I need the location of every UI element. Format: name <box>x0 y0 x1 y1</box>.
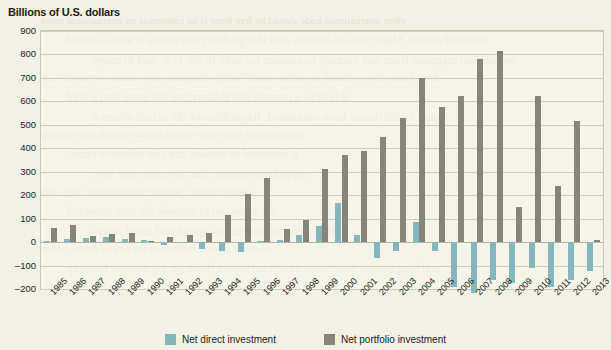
y-tick-600: 600 <box>2 95 36 106</box>
bar-portfolio-1991 <box>167 237 173 242</box>
bar-portfolio-2003 <box>400 118 406 242</box>
bar-portfolio-1989 <box>129 233 135 242</box>
bar-portfolio-2012 <box>574 121 580 242</box>
y-tick--100: –100 <box>2 259 36 270</box>
bar-portfolio-1990 <box>148 241 154 242</box>
y-axis-labels: 9008007006005004003002001000–100–200 <box>0 30 36 288</box>
bar-direct-2000 <box>335 203 341 242</box>
bar-direct-1991 <box>161 242 167 245</box>
bar-portfolio-1987 <box>90 236 96 243</box>
bar-portfolio-1999 <box>322 169 328 242</box>
bar-portfolio-2004 <box>419 78 425 242</box>
bar-direct-1989 <box>122 239 128 243</box>
bar-portfolio-1994 <box>225 215 231 242</box>
bar-direct-1997 <box>277 240 283 242</box>
y-tick-800: 800 <box>2 48 36 59</box>
bar-direct-1987 <box>83 238 89 242</box>
bar-direct-1993 <box>199 242 205 249</box>
bar-direct-2012 <box>568 242 574 280</box>
x-axis-labels: 1985198619871988198919901991199219931994… <box>40 290 602 332</box>
bar-direct-2009 <box>509 242 515 283</box>
bar-direct-1990 <box>141 240 147 242</box>
bar-direct-2002 <box>374 242 380 258</box>
bar-direct-1996 <box>258 241 264 242</box>
bar-portfolio-2007 <box>477 59 483 242</box>
y-tick-400: 400 <box>2 142 36 153</box>
legend-swatch-direct-icon <box>165 334 176 345</box>
bar-direct-1986 <box>64 239 70 242</box>
legend-label-portfolio: Net portfolio investment <box>341 334 446 345</box>
bar-portfolio-2005 <box>439 107 445 242</box>
bar-portfolio-2006 <box>458 96 464 243</box>
bar-portfolio-2008 <box>497 51 503 242</box>
y-tick-0: 0 <box>2 236 36 247</box>
bar-portfolio-1996 <box>264 178 270 243</box>
bar-portfolio-1998 <box>303 220 309 242</box>
bar-direct-1995 <box>238 242 244 252</box>
chart-legend: Net direct investment Net portfolio inve… <box>0 330 611 348</box>
legend-item-portfolio: Net portfolio investment <box>324 334 446 345</box>
bar-direct-2005 <box>432 242 438 251</box>
y-tick-100: 100 <box>2 212 36 223</box>
legend-item-direct: Net direct investment <box>165 334 276 345</box>
bar-portfolio-1985 <box>51 228 57 242</box>
bar-direct-1992 <box>180 242 186 243</box>
legend-swatch-portfolio-icon <box>324 334 335 345</box>
y-tick--200: –200 <box>2 283 36 294</box>
y-tick-700: 700 <box>2 71 36 82</box>
bar-direct-1988 <box>103 237 109 242</box>
bar-portfolio-2000 <box>342 155 348 242</box>
bar-series-container <box>41 31 603 289</box>
chart-plot-area <box>40 30 604 290</box>
y-tick-200: 200 <box>2 189 36 200</box>
bar-direct-2004 <box>413 222 419 242</box>
bar-portfolio-2011 <box>555 186 561 242</box>
bar-direct-2008 <box>490 242 496 280</box>
bar-direct-2010 <box>529 242 535 268</box>
bar-portfolio-1997 <box>284 229 290 242</box>
bar-direct-2003 <box>393 242 399 251</box>
bar-direct-2013 <box>587 242 593 271</box>
bar-direct-1998 <box>296 235 302 242</box>
legend-label-direct: Net direct investment <box>182 334 276 345</box>
bar-direct-1999 <box>316 226 322 242</box>
y-tick-300: 300 <box>2 165 36 176</box>
bar-portfolio-1988 <box>109 234 115 242</box>
bar-portfolio-1986 <box>70 225 76 242</box>
bar-portfolio-2002 <box>380 137 386 243</box>
bar-direct-2001 <box>354 235 360 242</box>
bar-portfolio-1995 <box>245 194 251 242</box>
y-tick-900: 900 <box>2 25 36 36</box>
bar-portfolio-2001 <box>361 151 367 242</box>
page-title: Billions of U.S. dollars <box>8 6 120 18</box>
bar-portfolio-1992 <box>187 235 193 243</box>
bar-direct-1985 <box>44 241 50 242</box>
bar-portfolio-2010 <box>535 96 541 243</box>
y-tick-500: 500 <box>2 118 36 129</box>
bar-portfolio-1993 <box>206 233 212 242</box>
bar-portfolio-2013 <box>594 240 600 242</box>
bar-direct-1994 <box>219 242 225 251</box>
bar-portfolio-2009 <box>516 207 522 242</box>
